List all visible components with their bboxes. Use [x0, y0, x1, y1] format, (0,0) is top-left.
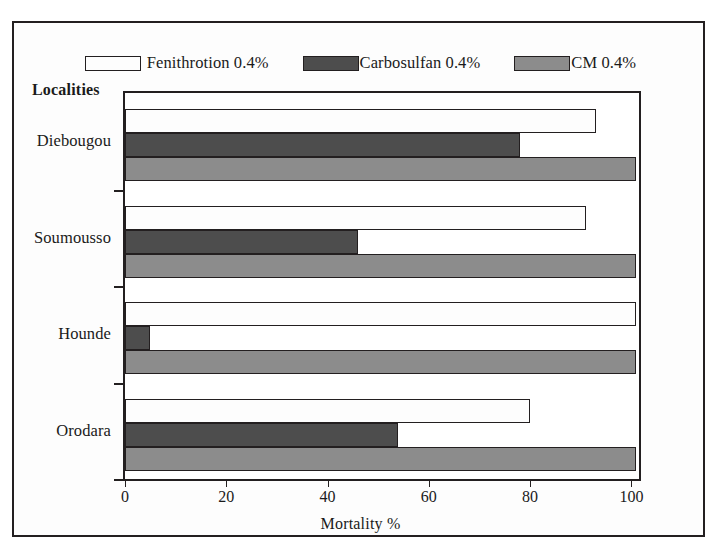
- bar-hounde-fenithrotion: [125, 302, 636, 326]
- x-axis-ticks: [123, 481, 641, 489]
- y-axis-label-hounde: Hounde: [19, 326, 123, 343]
- bar-diebougou-fenithrotion: [125, 109, 596, 133]
- x-axis-tick: [631, 481, 632, 487]
- legend-entry-cm: CM 0.4%: [514, 55, 636, 72]
- x-axis-tick: [328, 481, 329, 487]
- bar-orodara-fenithrotion: [125, 399, 530, 423]
- y-axis-tick: [114, 383, 123, 385]
- y-axis-label-diebougou: Diebougou: [19, 133, 123, 150]
- legend-swatch-carbosulfan: [303, 56, 359, 71]
- x-axis-tick-label-0: 0: [121, 489, 129, 505]
- x-axis-tick-labels: 020406080100: [123, 489, 641, 511]
- figure-frame: Fenithrotion 0.4% Carbosulfan 0.4% CM 0.…: [12, 21, 705, 537]
- x-axis-title: Mortality %: [14, 515, 707, 533]
- plot-area: [123, 91, 641, 481]
- legend-swatch-fenithrotion: [85, 56, 141, 71]
- y-axis-tick: [114, 286, 123, 288]
- x-axis-tick-label-20: 20: [218, 489, 234, 505]
- legend-label-fenithrotion: Fenithrotion 0.4%: [147, 55, 269, 72]
- bar-orodara-cm: [125, 447, 636, 471]
- bar-diebougou-cm: [125, 157, 636, 181]
- bar-orodara-carbosulfan: [125, 423, 398, 447]
- bar-diebougou-carbosulfan: [125, 133, 520, 157]
- y-axis-tick: [114, 479, 123, 481]
- x-axis-tick-label-40: 40: [320, 489, 336, 505]
- x-axis-tick-label-60: 60: [421, 489, 437, 505]
- bars-layer: [125, 93, 639, 479]
- legend-entry-carbosulfan: Carbosulfan 0.4%: [303, 55, 481, 72]
- y-axis-tick: [114, 190, 123, 192]
- bar-soumousso-carbosulfan: [125, 230, 358, 254]
- y-axis-label-soumousso: Soumousso: [19, 230, 123, 247]
- x-axis-tick-label-80: 80: [522, 489, 538, 505]
- x-axis-tick: [530, 481, 531, 487]
- chart-legend: Fenithrotion 0.4% Carbosulfan 0.4% CM 0.…: [14, 50, 707, 76]
- bar-soumousso-fenithrotion: [125, 206, 586, 230]
- bar-hounde-cm: [125, 350, 636, 374]
- x-axis-tick: [226, 481, 227, 487]
- legend-swatch-cm: [514, 56, 570, 71]
- x-axis-tick: [429, 481, 430, 487]
- x-axis-tick: [125, 481, 126, 487]
- y-axis-label-orodara: Orodara: [19, 423, 123, 440]
- legend-label-carbosulfan: Carbosulfan 0.4%: [360, 55, 481, 72]
- bar-hounde-carbosulfan: [125, 326, 150, 350]
- y-axis-labels: DiebougouSoumoussoHoundeOrodara: [14, 91, 123, 481]
- bar-soumousso-cm: [125, 254, 636, 278]
- x-axis-tick-label-100: 100: [619, 489, 643, 505]
- legend-entry-fenithrotion: Fenithrotion 0.4%: [85, 55, 269, 72]
- legend-label-cm: CM 0.4%: [571, 55, 636, 72]
